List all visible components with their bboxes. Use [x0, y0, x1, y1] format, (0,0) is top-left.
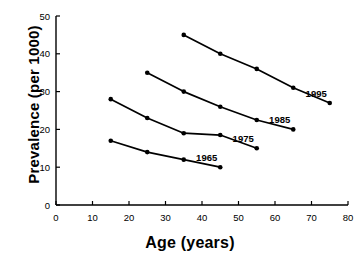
data-point-1975-age15 — [108, 97, 113, 102]
x-tick-label: 60 — [270, 212, 281, 223]
data-point-1995-age55 — [254, 67, 259, 72]
data-point-1975-age35 — [181, 131, 186, 136]
y-tick-label: 0 — [45, 200, 50, 211]
data-point-1965-age35 — [181, 157, 186, 162]
x-tick-label: 10 — [87, 212, 98, 223]
data-point-1965-age15 — [108, 138, 113, 143]
x-tick-label: 30 — [160, 212, 171, 223]
y-axis-title: Prevalence (per 1000) — [25, 10, 42, 200]
x-tick-label: 0 — [53, 212, 58, 223]
series-label-1965: 1965 — [196, 152, 218, 163]
series-label-1995: 1995 — [306, 88, 328, 99]
x-tick-label: 20 — [124, 212, 135, 223]
data-point-1995-age45 — [218, 52, 223, 57]
x-tick-label: 80 — [343, 212, 354, 223]
data-point-1995-age75 — [327, 101, 332, 106]
series-labels: 1965197519851995 — [196, 88, 327, 163]
data-point-1985-age45 — [218, 104, 223, 109]
data-point-1975-age55 — [254, 146, 259, 151]
data-point-1985-age55 — [254, 118, 259, 123]
data-point-1985-age65 — [291, 127, 296, 132]
x-tick-label: 50 — [233, 212, 244, 223]
data-series — [108, 33, 332, 170]
x-tick-label: 40 — [197, 212, 208, 223]
data-point-1975-age45 — [218, 133, 223, 138]
data-point-1965-age45 — [218, 165, 223, 170]
data-point-1995-age65 — [291, 86, 296, 91]
series-label-1985: 1985 — [269, 114, 291, 125]
data-point-1965-age25 — [145, 150, 150, 155]
x-tick-label: 70 — [306, 212, 317, 223]
plot-area: 0102030405001020304050607080 19651975198… — [0, 0, 363, 263]
x-axis-title: Age (years) — [80, 234, 300, 252]
data-point-1975-age25 — [145, 116, 150, 121]
data-point-1985-age35 — [181, 89, 186, 94]
prevalence-by-age-line-chart: 0102030405001020304050607080 19651975198… — [0, 0, 363, 263]
series-label-1975: 1975 — [233, 133, 255, 144]
data-point-1985-age25 — [145, 70, 150, 75]
data-point-1995-age35 — [181, 33, 186, 38]
